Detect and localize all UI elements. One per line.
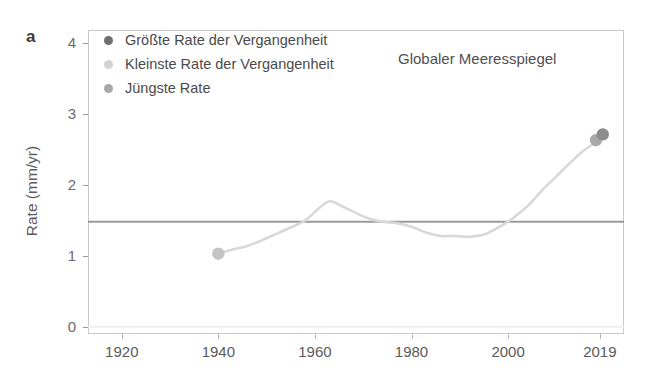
legend-item-largest-past-rate[interactable]: Größte Rate der Vergangenheit [104,28,334,52]
x-tick-label: 1960 [285,344,345,359]
legend-label: Größte Rate der Vergangenheit [125,32,327,48]
data-point-kleinste-rate-der-vergangenheit [212,248,224,260]
figure-panel: a Rate (mm/yr) 01234 1920194019601980200… [0,0,656,390]
y-tick-label: 0 [50,319,76,334]
x-tick-mark [315,334,316,339]
x-tick-label: 1980 [382,344,442,359]
y-tick-label: 1 [50,248,76,263]
legend: Größte Rate der VergangenheitKleinste Ra… [104,28,334,100]
legend-marker-icon [104,60,113,69]
panel-label: a [26,28,35,45]
legend-marker-icon [104,36,113,45]
x-tick-label: 1940 [188,344,248,359]
y-axis-label: Rate (mm/yr) [23,91,41,291]
x-tick-mark [218,334,219,339]
legend-item-smallest-past-rate[interactable]: Kleinste Rate der Vergangenheit [104,52,334,76]
y-tick-label: 4 [50,35,76,50]
x-tick-mark [412,334,413,339]
x-tick-mark [600,334,601,339]
series-line-globaler-meeresspiegel [218,140,599,254]
legend-marker-icon [104,84,113,93]
x-tick-mark [122,334,123,339]
y-tick-label: 2 [50,177,76,192]
legend-label: Jüngste Rate [125,80,210,96]
data-point-groesste-rate-der-vergangenheit [597,128,609,140]
series-annotation: Globaler Meeresspiegel [398,50,556,67]
x-tick-label: 2000 [478,344,538,359]
legend-label: Kleinste Rate der Vergangenheit [125,56,334,72]
x-tick-label: 1920 [92,344,152,359]
y-tick-label: 3 [50,106,76,121]
x-tick-label: 2019 [570,344,630,359]
x-tick-mark [508,334,509,339]
legend-item-most-recent-rate[interactable]: Jüngste Rate [104,76,334,100]
